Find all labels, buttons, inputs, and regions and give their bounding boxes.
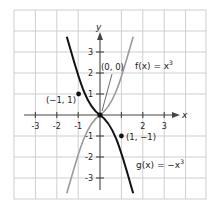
origin-leader-line [102, 74, 112, 111]
label-pos-one: (1, −1) [126, 132, 156, 142]
point-pos-one [119, 134, 124, 139]
y-tick-label: -3 [85, 174, 93, 183]
x-axis-label: x [181, 110, 188, 120]
x-tick-label: -1 [74, 122, 82, 131]
y-axis-arrow-icon [97, 32, 103, 40]
y-tick-label: 3 [88, 48, 93, 57]
y-tick-label: 2 [88, 69, 93, 78]
label-g: g(x) = −x3 [136, 158, 184, 170]
x-tick-label: 3 [162, 122, 167, 131]
x-axis-arrow-icon [172, 112, 180, 118]
graph-canvas: x y -3 -2 -1 2 3 3 2 1 -1 -2 -3 (0, 0) (… [0, 0, 215, 209]
x-tick-label: 2 [140, 122, 145, 131]
point-neg-one [76, 92, 81, 97]
label-neg-one: (−1, 1) [46, 95, 76, 105]
x-tick-label: -2 [53, 122, 61, 131]
label-f: f(x) = x3 [135, 59, 173, 71]
y-tick-label: 1 [88, 90, 93, 99]
x-tick-label: -3 [31, 122, 39, 131]
point-origin [97, 112, 102, 117]
y-axis-label: y [95, 22, 102, 32]
y-tick-label: -2 [85, 153, 93, 162]
label-origin: (0, 0) [101, 62, 124, 72]
